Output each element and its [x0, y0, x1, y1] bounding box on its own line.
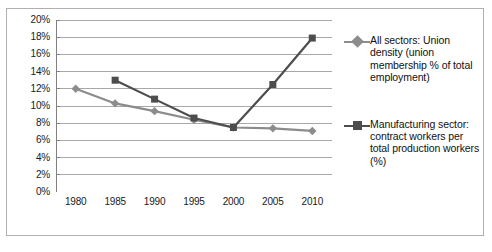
- y-tick-label: 12%: [31, 84, 50, 94]
- x-tick-label: 1995: [183, 196, 204, 208]
- data-point: [150, 107, 158, 115]
- data-point: [151, 96, 158, 103]
- y-tick-label: 4%: [36, 153, 50, 163]
- plot-svg: [56, 20, 332, 192]
- y-tick-label: 14%: [31, 67, 50, 77]
- legend-diamond-1: [351, 35, 364, 48]
- legend-square-2: [353, 121, 362, 130]
- diamond-marker-icon: [344, 35, 370, 48]
- data-point: [308, 127, 316, 135]
- y-tick-label: 8%: [36, 118, 50, 128]
- x-tick-label: 1980: [65, 196, 86, 208]
- y-tick-label: 0%: [36, 187, 50, 197]
- y-axis: 0%2%4%6%8%10%12%14%16%18%20%: [8, 20, 54, 192]
- y-tick-label: 16%: [31, 49, 50, 59]
- data-point: [191, 115, 198, 122]
- data-point: [112, 77, 119, 84]
- data-point: [230, 124, 237, 131]
- x-tick-label: 2010: [302, 196, 323, 208]
- legend-label-all-sectors: All sectors: Union density (union member…: [370, 34, 480, 84]
- x-tick-label: 2000: [223, 196, 244, 208]
- data-point: [269, 124, 277, 132]
- series-line-0: [76, 89, 313, 131]
- y-tick-label: 2%: [36, 170, 50, 180]
- x-axis: 1980198519901995200020052010: [56, 196, 332, 212]
- series-line-1: [115, 38, 312, 127]
- data-point: [72, 85, 80, 93]
- x-tick-label: 2005: [262, 196, 283, 208]
- y-tick-label: 20%: [31, 15, 50, 25]
- square-marker-icon: [344, 119, 370, 132]
- y-tick-label: 10%: [31, 101, 50, 111]
- x-tick-label: 1990: [144, 196, 165, 208]
- y-tick-label: 18%: [31, 32, 50, 42]
- plot-area: [56, 20, 332, 192]
- legend-item-all-sectors[interactable]: All sectors: Union density (union member…: [344, 34, 480, 84]
- legend-item-manufacturing[interactable]: Manufacturing sector: contract workers p…: [344, 118, 480, 168]
- data-point: [269, 81, 276, 88]
- legend-label-manufacturing: Manufacturing sector: contract workers p…: [370, 118, 480, 168]
- data-point: [309, 35, 316, 42]
- y-tick-label: 6%: [36, 135, 50, 145]
- chart-figure: 0%2%4%6%8%10%12%14%16%18%20% 19801985199…: [0, 0, 492, 252]
- chart-legend: All sectors: Union density (union member…: [344, 34, 480, 201]
- x-tick-label: 1985: [104, 196, 125, 208]
